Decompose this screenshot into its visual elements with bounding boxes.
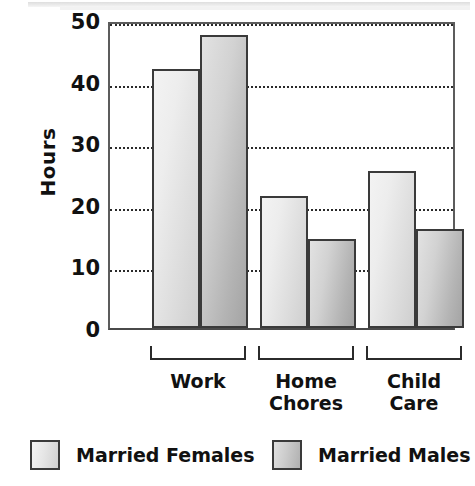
bar-home-chores-married-males <box>308 239 356 328</box>
legend-item-married-males: Married Males <box>272 440 471 470</box>
bar-child-care-married-males <box>416 229 464 328</box>
legend-label: Married Males <box>318 444 471 466</box>
y-tick-label-0: 0 <box>36 318 100 342</box>
category-label-child-care: Child Care <box>344 370 475 414</box>
legend-swatch-shadow <box>36 438 63 468</box>
dark-gray-swatch <box>272 440 302 470</box>
bar-shadow <box>158 66 204 326</box>
bar-child-care-married-females <box>368 171 416 328</box>
bar-work-married-females <box>152 69 200 328</box>
chart-page: Hours 01020304050 WorkHome ChoresChild C… <box>0 0 475 486</box>
gridline-50 <box>110 24 453 26</box>
legend-label: Married Females <box>76 444 255 466</box>
legend-item-married-females: Married Females <box>30 440 255 470</box>
scan-artifact-strip-secondary <box>60 7 470 10</box>
y-tick-label-30: 30 <box>36 133 100 157</box>
legend-swatch-shadow <box>278 438 305 468</box>
bracket-home-chores <box>258 346 354 360</box>
bar-shadow <box>374 168 420 326</box>
y-tick-label-20: 20 <box>36 195 100 219</box>
bar-shadow <box>206 32 252 326</box>
bar-work-married-males <box>200 35 248 328</box>
y-tick-label-40: 40 <box>36 72 100 96</box>
bracket-work <box>150 346 246 360</box>
y-tick-label-10: 10 <box>36 256 100 280</box>
bracket-child-care <box>366 346 462 360</box>
bar-shadow <box>314 236 360 326</box>
bar-shadow <box>422 226 468 326</box>
bar-home-chores-married-females <box>260 196 308 328</box>
bar-shadow <box>266 193 312 326</box>
plot-area <box>108 22 455 330</box>
light-gray-swatch <box>30 440 60 470</box>
y-axis-tick-labels: 01020304050 <box>30 22 100 330</box>
y-tick-label-50: 50 <box>36 10 100 34</box>
